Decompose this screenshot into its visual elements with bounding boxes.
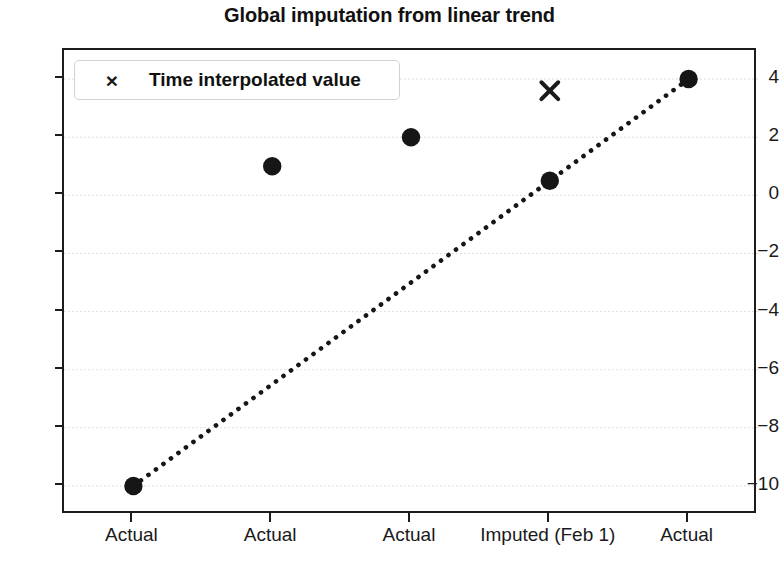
chart-title: Global imputation from linear trend [0, 4, 779, 27]
y-axis-tick-mark [55, 250, 64, 252]
y-axis-tick-mark [55, 367, 64, 369]
y-axis-tick-label: −6 [731, 358, 779, 377]
x-axis-tick-label: Imputed (Feb 1) [480, 525, 615, 544]
chart-figure: Global imputation from linear trend × Ti… [0, 0, 779, 575]
x-axis-tick-mark [130, 513, 132, 522]
x-axis-tick-label: Actual [660, 525, 713, 544]
data-point [541, 172, 559, 190]
x-axis-tick-label: Actual [383, 525, 436, 544]
y-axis-tick-label: −2 [731, 241, 779, 260]
interpolated-point [541, 82, 558, 99]
x-axis-tick-mark [269, 513, 271, 522]
data-point [124, 477, 142, 495]
chart-legend[interactable]: × Time interpolated value [74, 60, 400, 100]
y-axis [0, 0, 50, 575]
y-axis-tick-mark [55, 483, 64, 485]
y-axis-tick-mark [55, 425, 64, 427]
y-axis-tick-label: 4 [731, 67, 779, 86]
plot-canvas [64, 50, 758, 515]
data-point [263, 157, 281, 175]
x-axis-tick-mark [408, 513, 410, 522]
plot-area: × Time interpolated value [62, 48, 756, 513]
y-axis-tick-mark [55, 309, 64, 311]
data-point [679, 70, 697, 88]
y-axis-tick-label: −4 [731, 300, 779, 319]
y-axis-tick-label: −8 [731, 416, 779, 435]
y-axis-tick-label: −10 [731, 474, 779, 493]
y-axis-tick-mark [55, 76, 64, 78]
data-point [402, 128, 420, 146]
x-axis-tick-mark [686, 513, 688, 522]
legend-label: Time interpolated value [149, 69, 361, 91]
y-axis-tick-label: 2 [731, 125, 779, 144]
x-axis-tick-label: Actual [244, 525, 297, 544]
y-axis-tick-mark [55, 192, 64, 194]
x-axis-tick-mark [547, 513, 549, 522]
x-axis-tick-label: Actual [105, 525, 158, 544]
y-axis-tick-mark [55, 134, 64, 136]
x-marker-icon: × [97, 70, 127, 91]
y-axis-tick-label: 0 [731, 183, 779, 202]
